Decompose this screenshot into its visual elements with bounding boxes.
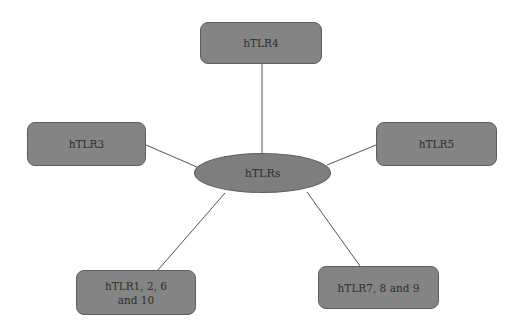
node-htlr3: hTLR3 xyxy=(27,122,146,166)
node-label: hTLR5 xyxy=(419,137,454,151)
hub-label: hTLRs xyxy=(245,167,281,180)
node-label: hTLR7, 8 and 9 xyxy=(338,281,420,295)
edge-hub-tlr7 xyxy=(307,192,360,266)
node-label: hTLR3 xyxy=(69,137,104,151)
edge-hub-tlr1 xyxy=(158,193,225,270)
node-htlr7-8-9: hTLR7, 8 and 9 xyxy=(318,266,439,309)
hub-htlrs: hTLRs xyxy=(194,153,331,193)
node-htlr5: hTLR5 xyxy=(376,122,497,166)
node-label: hTLR4 xyxy=(243,36,278,50)
edge-hub-tlr3 xyxy=(146,145,197,167)
node-label: hTLR1, 2, 6 and 10 xyxy=(105,279,167,307)
node-htlr1-2-6-10: hTLR1, 2, 6 and 10 xyxy=(76,270,196,315)
edge-hub-tlr5 xyxy=(327,145,376,165)
node-htlr4: hTLR4 xyxy=(200,22,322,64)
